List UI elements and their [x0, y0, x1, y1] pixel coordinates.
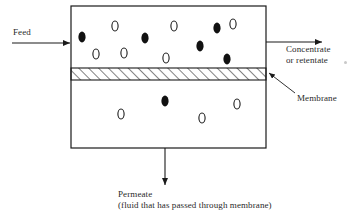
- solute-particle: [78, 32, 85, 43]
- artifact-speck: [344, 61, 347, 64]
- membrane-label: Membrane: [297, 93, 337, 104]
- solvent-particle: [121, 48, 127, 58]
- solute-particle: [161, 96, 168, 107]
- solvent-particle: [230, 19, 236, 29]
- permeate-label: Permeate (fluid that has passed through …: [118, 189, 272, 211]
- permeate-label-line2: (fluid that has passed through membrane): [118, 200, 272, 211]
- solute-particle: [141, 33, 148, 44]
- solute-particle: [196, 41, 203, 52]
- solvent-particle: [199, 113, 205, 123]
- solvent-particle: [93, 49, 99, 59]
- lower-solute-particles: [161, 96, 168, 107]
- solute-particle: [213, 23, 220, 34]
- solute-particle: [223, 54, 230, 65]
- feed-label: Feed: [13, 27, 31, 38]
- permeate-label-line1: Permeate: [118, 189, 272, 200]
- membrane-band: [71, 68, 266, 80]
- solvent-particle: [163, 53, 169, 63]
- concentrate-label: Concentrate or retentate: [286, 44, 331, 66]
- concentrate-label-line1: Concentrate: [286, 44, 331, 55]
- diagram-canvas: Feed Concentrate or retentate Membrane P…: [0, 0, 359, 223]
- solvent-particle: [234, 99, 240, 109]
- solvent-particle: [118, 109, 124, 119]
- concentrate-label-line2: or retentate: [286, 55, 331, 66]
- solvent-particle: [112, 21, 118, 31]
- solvent-particle: [171, 21, 177, 31]
- membrane-leader-line: [269, 73, 295, 93]
